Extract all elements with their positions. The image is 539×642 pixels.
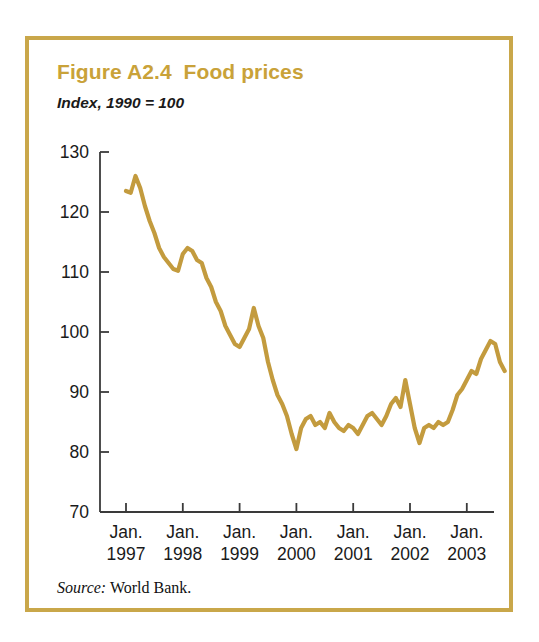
x-axis: Jan.1997Jan.1998Jan.1999Jan.2000Jan.2001… [100,503,494,564]
y-tick-label: 70 [70,502,90,522]
x-tick-label-year: 2001 [334,544,373,564]
data-series-group [126,176,505,449]
x-tick-label-month: Jan. [337,522,370,542]
y-tick-label: 100 [60,322,89,342]
x-tick-label-year: 2000 [277,544,316,564]
y-tick-label: 120 [60,202,89,222]
y-tick-label: 90 [70,382,90,402]
x-tick-label-month: Jan. [109,522,142,542]
series-line-food-price-index [126,176,505,449]
x-tick-label-year: 1997 [107,544,146,564]
y-tick-label: 110 [61,262,89,282]
x-tick-label-month: Jan. [393,522,426,542]
x-tick-label-year: 2003 [447,544,486,564]
x-tick-label-month: Jan. [280,522,313,542]
x-tick-label-year: 1998 [163,544,202,564]
source-note: Source: World Bank. [57,579,191,597]
y-axis: 130120110100908070 [60,142,109,522]
food-price-line-chart: 130120110100908070 Jan.1997Jan.1998Jan.1… [29,40,517,616]
x-tick-label-month: Jan. [166,522,199,542]
x-tick-label-year: 2002 [391,544,430,564]
figure-frame: Figure A2.4 Food prices Index, 1990 = 10… [25,36,513,612]
x-tick-label-month: Jan. [450,522,483,542]
x-tick-label-year: 1999 [220,544,259,564]
y-tick-label: 130 [60,142,89,162]
source-value: World Bank. [106,579,191,596]
y-tick-label: 80 [70,442,90,462]
source-label: Source: [57,579,106,596]
x-tick-label-month: Jan. [223,522,256,542]
